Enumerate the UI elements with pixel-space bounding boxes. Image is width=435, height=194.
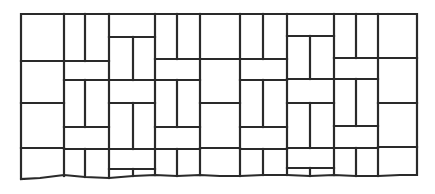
brick-pattern-drawing (0, 0, 435, 194)
pattern-outline (21, 14, 417, 179)
brick-joint-lines (21, 14, 417, 178)
basketweave-pattern-figure: Line drawing of a basketweave brick pavi… (0, 0, 435, 194)
